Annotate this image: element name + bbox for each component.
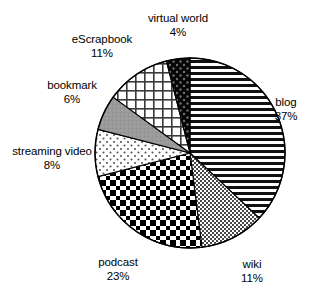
pie-label-name: wiki xyxy=(241,258,263,272)
pie-label-text: eScrapbook 11% xyxy=(72,33,132,60)
pie-label-value: 11% xyxy=(72,47,132,61)
pie-label-name: streaming video xyxy=(12,145,92,159)
pie-label-name: bookmark xyxy=(47,79,97,93)
pie-label-name: podcast xyxy=(98,256,138,270)
pie-label-value: 11% xyxy=(241,272,263,286)
pie-label-value: 4% xyxy=(148,26,208,40)
pie-label-name: virtual world xyxy=(148,12,208,26)
pie-label-value: 37% xyxy=(275,110,298,124)
pie-label-value: 23% xyxy=(98,270,138,284)
pie-label-value: 6% xyxy=(47,93,97,107)
pie-label-text: podcast 23% xyxy=(98,256,138,283)
pie-label-name: blog xyxy=(275,96,298,110)
pie-label-text: wiki 11% xyxy=(241,258,263,285)
pie-label-name: eScrapbook xyxy=(72,33,132,47)
pie-label-text: bookmark 6% xyxy=(47,79,97,106)
pie-slices-group xyxy=(95,58,285,248)
pie-label-value: 8% xyxy=(12,159,92,173)
pie-label-text: streaming video 8% xyxy=(12,145,92,172)
pie-label-text: virtual world 4% xyxy=(148,12,208,39)
pie-label-text: blog 37% xyxy=(275,96,298,123)
pie-chart: blog 37% wiki 11% podcast 23% streaming … xyxy=(0,0,326,298)
